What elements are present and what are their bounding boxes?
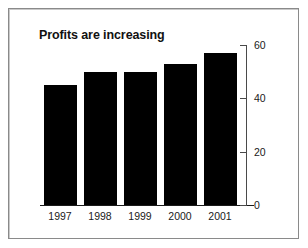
x-axis-tick-label: 2000: [160, 210, 200, 222]
x-axis-tick-label: 2001: [200, 210, 240, 222]
chart-screenshot: Profits are increasing 6040200 199719981…: [0, 0, 308, 248]
x-axis-tick-label: 1997: [40, 210, 80, 222]
y-axis-line: [246, 45, 247, 206]
bar[interactable]: [44, 85, 77, 205]
y-axis-tick-mark: [240, 45, 247, 46]
y-axis-tick-label: 0: [254, 200, 260, 211]
y-axis-tick-label: 40: [254, 93, 266, 104]
bar-slot: [200, 40, 240, 205]
y-axis-tick-mark: [240, 98, 247, 99]
y-axis-tick-label: 20: [254, 146, 266, 157]
bar[interactable]: [164, 64, 197, 205]
y-axis-tick-label: 60: [254, 40, 266, 51]
y-axis-tick-mark: [240, 152, 247, 153]
x-axis-labels: 19971998199920002001: [40, 210, 246, 222]
x-axis-tick-label: 1999: [120, 210, 160, 222]
bar-slot: [80, 40, 120, 205]
bar-group: [40, 40, 246, 205]
bar[interactable]: [204, 53, 237, 205]
plot-area: [40, 40, 246, 205]
x-axis-baseline: [40, 205, 254, 206]
bar-slot: [160, 40, 200, 205]
bar-slot: [120, 40, 160, 205]
bar[interactable]: [84, 72, 117, 205]
y-axis-tick-mark: [240, 205, 247, 206]
bar-slot: [40, 40, 80, 205]
bar[interactable]: [124, 72, 157, 205]
x-axis-tick-label: 1998: [80, 210, 120, 222]
